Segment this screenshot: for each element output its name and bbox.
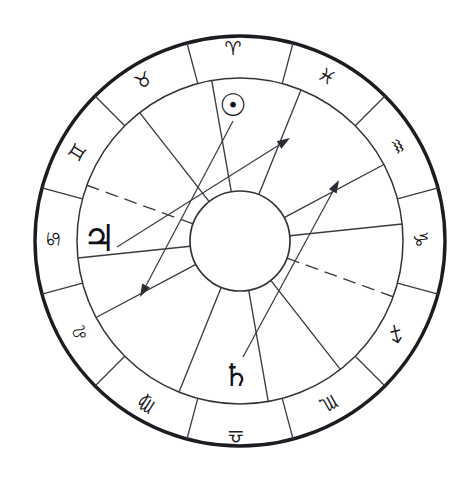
sign-divider-0: [282, 43, 293, 84]
planet-glyph-jupiter: ♃: [82, 217, 115, 260]
house-cusp-line-9: [271, 280, 341, 369]
zodiac-glyph-cancer: ♋: [42, 230, 65, 248]
planet-glyph-sun: ☉: [219, 87, 247, 123]
house-cusp-line-3: [140, 113, 210, 202]
zodiac-glyph-gemini: ♊: [63, 139, 91, 165]
sign-divider-7: [282, 398, 293, 439]
center-hub-circle: [190, 191, 290, 291]
zodiac-glyph-virgo: ♍: [133, 391, 159, 419]
sign-divider-11: [355, 96, 385, 126]
zodiac-glyph-taurus: ♉: [130, 66, 156, 94]
sign-divider-4: [42, 283, 83, 294]
house-cusp-line-8: [249, 290, 269, 401]
sign-divider-1: [187, 43, 198, 84]
sign-divider-9: [397, 283, 438, 294]
center-hub-layer: [190, 191, 290, 291]
planet-glyph-saturn: ♄: [222, 357, 250, 393]
sign-divider-5: [95, 356, 125, 386]
zodiac-glyph-scorpio: ♏: [316, 390, 342, 418]
aspect-saturn-arrowhead: [329, 180, 339, 194]
sign-divider-8: [355, 356, 385, 386]
chart-svg-canvas: ♈♉♊♋♌♍♎♏♐♑♒♓ ☉♃♄: [0, 0, 474, 477]
house-cusp-line-11: [290, 224, 402, 236]
zodiac-glyph-pisces: ♓: [314, 62, 340, 90]
sign-divider-3: [42, 188, 83, 199]
sign-divider-2: [95, 96, 125, 126]
zodiac-glyph-aquarius: ♒: [384, 133, 411, 158]
zodiac-glyph-libra: ♎: [227, 426, 244, 448]
house-cusp-line-7: [179, 287, 221, 392]
house-cusp-line-10: [287, 258, 393, 297]
zodiac-glyph-capricorn: ♑: [410, 230, 433, 248]
sign-divider-6: [187, 398, 198, 439]
astrology-chart-wheel: ♈♉♊♋♌♍♎♏♐♑♒♓ ☉♃♄: [0, 0, 474, 477]
zodiac-glyph-leo: ♌: [66, 320, 94, 346]
sign-divider-10: [397, 188, 438, 199]
zodiac-glyph-sagittarius: ♐: [382, 321, 410, 347]
zodiac-glyph-aries: ♈: [224, 37, 241, 59]
